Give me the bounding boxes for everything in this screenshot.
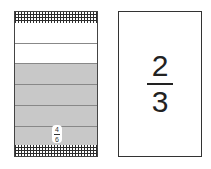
fraction-label: 4 6 <box>52 125 62 143</box>
bar-segment-3-shaded <box>15 63 97 84</box>
label-fraction-line <box>54 134 60 135</box>
hatched-band-bottom <box>15 145 97 156</box>
card-denominator: 3 <box>152 87 169 117</box>
hatched-band-top <box>15 12 97 23</box>
bar-segment-5-shaded <box>15 105 97 126</box>
bar-segment-2 <box>15 43 97 63</box>
bar-segment-4-shaded <box>15 84 97 105</box>
label-numerator: 4 <box>55 126 59 133</box>
fraction-bar: 4 6 <box>14 11 98 157</box>
label-denominator: 6 <box>55 136 59 143</box>
card-numerator: 2 <box>152 51 169 81</box>
bar-segment-1 <box>15 23 97 43</box>
fraction-card: 2 3 <box>118 11 202 157</box>
